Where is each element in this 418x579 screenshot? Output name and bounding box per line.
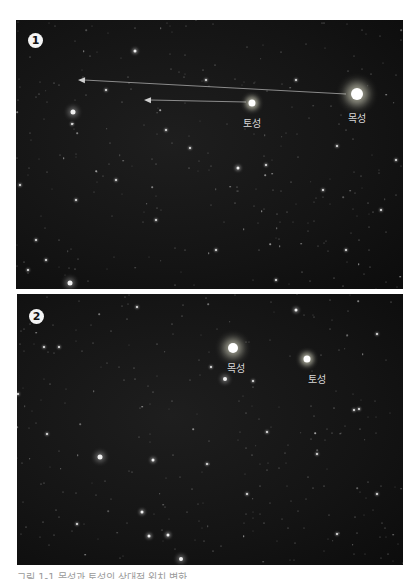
background-star	[260, 486, 261, 487]
star	[134, 50, 137, 53]
background-star	[326, 240, 327, 241]
background-star	[400, 29, 402, 31]
background-star	[49, 467, 50, 468]
background-star	[122, 101, 123, 102]
star	[215, 249, 217, 251]
background-star	[263, 209, 264, 210]
star	[43, 346, 45, 348]
background-star	[107, 363, 108, 364]
star	[336, 533, 338, 535]
background-star	[59, 516, 60, 517]
background-star	[281, 136, 283, 138]
background-star	[82, 77, 83, 78]
background-star	[314, 221, 315, 222]
background-star	[323, 243, 324, 244]
background-star	[395, 74, 396, 75]
background-star	[160, 27, 162, 29]
background-star	[271, 302, 272, 303]
background-star	[321, 354, 322, 355]
background-star	[297, 157, 298, 158]
background-star	[16, 158, 17, 159]
background-star	[314, 432, 316, 434]
background-star	[226, 124, 227, 125]
background-star	[253, 512, 254, 513]
background-star	[29, 132, 30, 133]
background-star	[41, 484, 42, 485]
background-star	[107, 511, 109, 513]
background-star	[202, 70, 203, 71]
background-star	[332, 540, 334, 542]
background-star	[209, 85, 210, 86]
background-star	[200, 121, 201, 122]
background-star	[131, 88, 132, 89]
star	[19, 184, 21, 186]
background-star	[110, 498, 111, 499]
background-star	[294, 542, 295, 543]
background-star	[264, 134, 266, 136]
background-star	[22, 388, 23, 389]
background-star	[296, 294, 297, 295]
arrow-head-icon	[144, 97, 151, 103]
background-star	[375, 433, 376, 434]
background-star	[346, 336, 347, 337]
background-star	[313, 488, 314, 489]
background-star	[164, 507, 165, 508]
background-star	[253, 133, 254, 134]
background-star	[164, 351, 166, 353]
background-star	[352, 394, 353, 395]
background-star	[389, 413, 390, 414]
star	[252, 380, 254, 382]
background-star	[75, 269, 76, 270]
arrows-overlay	[17, 294, 403, 565]
background-star	[254, 82, 255, 83]
background-star	[338, 533, 339, 534]
jupiter-label: 목성	[227, 360, 245, 375]
background-star	[244, 523, 245, 524]
background-star	[287, 212, 288, 213]
background-star	[26, 527, 27, 528]
background-star	[36, 332, 38, 334]
background-star	[150, 442, 151, 443]
background-star	[331, 432, 332, 433]
background-star	[386, 282, 387, 283]
background-star	[127, 319, 128, 320]
background-star	[360, 176, 361, 177]
background-star	[300, 432, 302, 434]
background-star	[41, 215, 42, 216]
star	[148, 535, 151, 538]
background-star	[346, 23, 347, 24]
background-star	[255, 189, 256, 190]
star	[167, 534, 170, 537]
star	[189, 147, 191, 149]
background-star	[403, 563, 404, 564]
background-star	[78, 259, 79, 260]
background-star	[73, 129, 74, 130]
background-star	[138, 436, 139, 437]
background-star	[85, 94, 86, 95]
background-star	[159, 493, 161, 495]
background-star	[22, 502, 23, 503]
background-star	[199, 374, 200, 375]
background-star	[162, 529, 163, 530]
background-star	[385, 94, 387, 96]
background-star	[311, 438, 312, 439]
star	[266, 431, 268, 433]
background-star	[157, 107, 158, 108]
background-star	[330, 179, 331, 180]
background-star	[237, 439, 238, 440]
background-star	[216, 328, 217, 329]
background-star	[215, 64, 216, 65]
background-star	[309, 117, 310, 118]
background-star	[287, 486, 288, 487]
background-star	[289, 283, 290, 284]
background-star	[46, 296, 47, 297]
background-star	[296, 203, 297, 204]
background-star	[360, 491, 361, 492]
background-star	[307, 231, 308, 232]
background-star	[127, 76, 128, 77]
background-star	[329, 514, 330, 515]
star	[223, 377, 227, 381]
background-star	[363, 514, 364, 515]
background-star	[251, 454, 252, 455]
background-star	[328, 250, 329, 251]
